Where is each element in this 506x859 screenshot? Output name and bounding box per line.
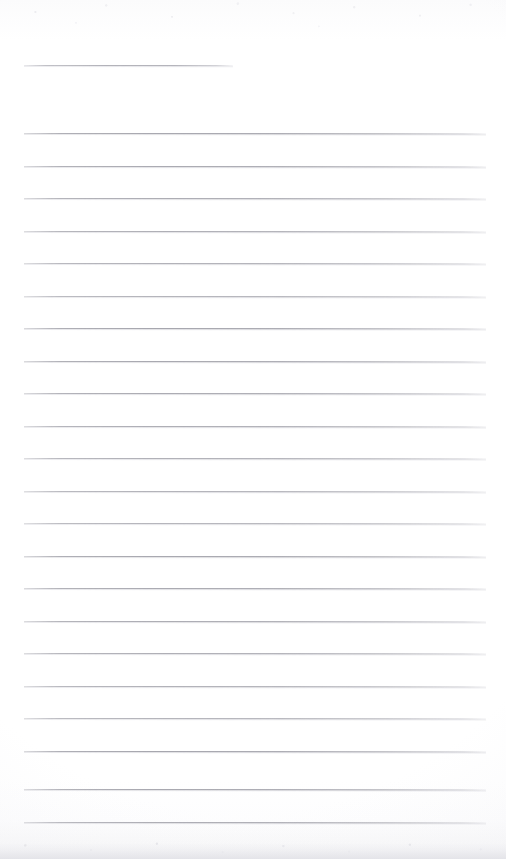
ruled-line bbox=[24, 231, 486, 233]
ruled-line bbox=[24, 65, 233, 66]
paper-background bbox=[0, 0, 506, 859]
ruled-line bbox=[24, 491, 486, 493]
ruled-line bbox=[24, 653, 486, 655]
ruled-line bbox=[24, 328, 486, 330]
ruled-line bbox=[24, 621, 486, 623]
ruled-line bbox=[24, 393, 486, 395]
ruled-line bbox=[24, 822, 486, 824]
ruled-line bbox=[24, 718, 486, 720]
ruled-line bbox=[24, 458, 486, 460]
ruled-line bbox=[24, 361, 486, 363]
ruled-line bbox=[24, 588, 486, 590]
ruled-line bbox=[24, 426, 486, 428]
ruled-line bbox=[24, 686, 486, 688]
scanned-page bbox=[0, 0, 506, 859]
ruled-line bbox=[24, 296, 486, 298]
ruled-line bbox=[24, 751, 486, 753]
ruled-line bbox=[24, 789, 486, 791]
ruled-line bbox=[24, 198, 486, 200]
ruled-line bbox=[24, 133, 486, 135]
ruled-line bbox=[24, 166, 486, 168]
ruled-line bbox=[24, 523, 486, 525]
ruled-line bbox=[24, 263, 486, 265]
ruled-line bbox=[24, 556, 486, 558]
